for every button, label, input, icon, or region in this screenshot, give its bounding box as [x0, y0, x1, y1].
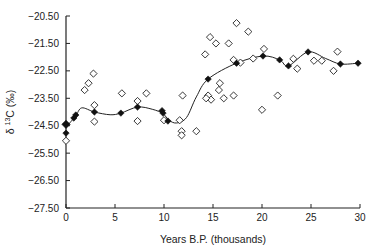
- mean-point: [285, 63, 291, 69]
- sample-point: [62, 137, 69, 144]
- x-axis: 051015202530: [63, 204, 366, 223]
- sample-point: [90, 70, 97, 77]
- x-tick-label: 0: [63, 212, 69, 223]
- sample-point: [216, 80, 223, 87]
- sample-point: [81, 86, 88, 93]
- sample-point: [250, 55, 257, 62]
- sample-point: [334, 48, 341, 55]
- y-tick-label: −24.50: [28, 120, 59, 131]
- y-tick-label: −20.50: [28, 11, 59, 22]
- sample-point: [215, 86, 222, 93]
- x-axis-title: Years B.P. (thousands): [160, 233, 266, 245]
- sample-point: [274, 92, 281, 99]
- mean-point: [305, 49, 311, 55]
- sample-points-group: [62, 20, 341, 145]
- mean-point: [62, 120, 70, 128]
- y-tick-label: −25.50: [28, 148, 59, 159]
- mean-point: [118, 110, 124, 116]
- sample-point: [230, 92, 237, 99]
- x-tick-label: 10: [158, 212, 170, 223]
- y-tick-label: −21.50: [28, 38, 59, 49]
- sample-point: [310, 57, 317, 64]
- sample-point: [290, 55, 297, 62]
- x-tick-label: 25: [305, 212, 317, 223]
- mean-point: [337, 61, 343, 67]
- sample-point: [206, 34, 213, 41]
- sample-point: [118, 90, 125, 97]
- sample-point: [212, 40, 219, 47]
- sample-point: [143, 90, 150, 97]
- sample-point: [179, 92, 186, 99]
- sample-point: [225, 40, 232, 47]
- y-tick-label: −26.50: [28, 175, 59, 186]
- sample-point: [193, 128, 200, 135]
- sample-point: [85, 80, 92, 87]
- delta-13c-chart: −20.50−21.50−22.50−23.50−24.50−25.50−26.…: [0, 0, 375, 249]
- y-axis-title-suffix: C (‰): [4, 90, 16, 118]
- x-tick-label: 30: [354, 212, 366, 223]
- x-tick-label: 5: [112, 212, 118, 223]
- mean-point: [63, 130, 69, 136]
- sample-point: [91, 102, 98, 109]
- sample-point: [233, 20, 240, 27]
- y-axis: −20.50−21.50−22.50−23.50−24.50−25.50−26.…: [28, 11, 70, 214]
- sample-point: [134, 117, 141, 124]
- mean-point: [355, 60, 361, 66]
- y-tick-label: −27.50: [28, 203, 59, 214]
- mean-point: [134, 104, 140, 110]
- sample-point: [202, 51, 209, 58]
- sample-point: [245, 28, 252, 35]
- sample-point: [220, 95, 227, 102]
- x-tick-label: 15: [207, 212, 219, 223]
- sample-point: [91, 118, 98, 125]
- y-axis-title: δ 13C (‰): [4, 90, 16, 135]
- mean-point: [260, 53, 266, 59]
- sample-point: [258, 106, 265, 113]
- sample-point: [330, 67, 337, 74]
- y-axis-title-sup: 13: [4, 118, 11, 126]
- sample-point: [294, 65, 301, 72]
- y-tick-label: −22.50: [28, 65, 59, 76]
- sample-point: [260, 45, 267, 52]
- mean-point: [91, 109, 97, 115]
- x-tick-label: 20: [256, 212, 268, 223]
- y-axis-title-prefix: δ: [4, 126, 16, 135]
- y-tick-label: −23.50: [28, 93, 59, 104]
